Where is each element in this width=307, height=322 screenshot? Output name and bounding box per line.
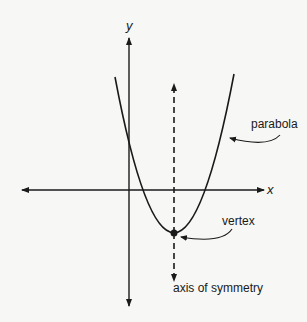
axis-of-symmetry-label: axis of symmetry bbox=[173, 281, 263, 295]
parabola-diagram: x y parabola vertex axis of symmetry bbox=[0, 0, 307, 322]
parabola-label: parabola bbox=[251, 117, 298, 131]
y-axis-label: y bbox=[125, 18, 134, 33]
vertex-label: vertex bbox=[222, 214, 255, 228]
vertex-point bbox=[171, 230, 178, 237]
vertex-pointer-arrow bbox=[181, 229, 232, 239]
x-axis-label: x bbox=[266, 182, 274, 197]
parabola-pointer-arrow bbox=[230, 135, 280, 142]
